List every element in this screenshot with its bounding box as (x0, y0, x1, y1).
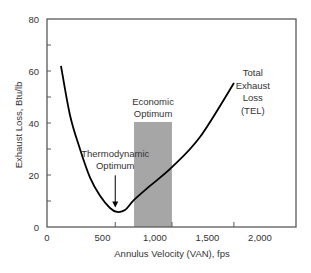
x-tick-label: 1,500 (196, 232, 220, 243)
arrow-head-icon (112, 202, 118, 208)
thermodynamic-optimum-label-line: Optimum (96, 160, 135, 171)
tel-label-line: Exhaust (236, 80, 271, 91)
chart-svg: 020406080 05001,0001,5002,000 TotalExhau… (0, 0, 311, 273)
economic-optimum-label-line: Optimum (134, 108, 173, 119)
y-tick-label: 20 (28, 170, 39, 181)
tel-label-line: Loss (243, 92, 263, 103)
y-tick-label: 80 (28, 14, 39, 25)
y-tick-label: 40 (28, 118, 39, 129)
economic-optimum-region (134, 122, 172, 227)
x-tick-label: 500 (95, 232, 111, 243)
economic-optimum-band (134, 122, 172, 227)
tel-label-line: (TEL) (241, 105, 265, 116)
x-tick-label: 1,000 (143, 232, 167, 243)
tel-label-line: Total (243, 67, 263, 78)
y-tick-label: 60 (28, 66, 39, 77)
annotations: TotalExhaustLoss(TEL)EconomicOptimumTher… (81, 67, 270, 207)
economic-optimum-label-line: Economic (132, 96, 174, 107)
x-tick-label: 0 (44, 232, 49, 243)
x-axis-title: Annulus Velocity (VAN), fps (114, 248, 230, 259)
y-tick-label: 0 (34, 222, 39, 233)
y-axis-title: Exhaust Loss, Btu/lb (13, 82, 24, 169)
x-tick-label: 2,000 (248, 232, 272, 243)
exhaust-loss-chart: 020406080 05001,0001,5002,000 TotalExhau… (0, 0, 311, 273)
thermodynamic-optimum-label-line: Thermodynamic (81, 148, 149, 159)
